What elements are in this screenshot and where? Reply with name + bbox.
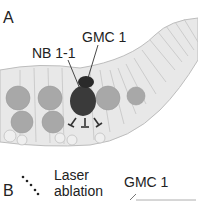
laser-ablation-marker [22, 176, 40, 196]
panel-b-gmc-leader [130, 194, 136, 200]
neuroblast-cell [11, 111, 33, 133]
neuroblast-cell [42, 111, 64, 133]
neuroblast-cell [38, 86, 62, 110]
neuroblast-cell [127, 87, 145, 105]
panel-b-label: B [3, 183, 14, 199]
gmc-1-cell [78, 76, 94, 88]
panel-a-label: A [3, 10, 14, 26]
nb-1-1-label: NB 1-1 [32, 46, 76, 60]
gmc-1-label: GMC 1 [82, 30, 126, 44]
laser-label-line1: Laser [54, 168, 89, 182]
neuroblast-cell [6, 86, 30, 110]
panel-b-gmc-label: GMC 1 [124, 175, 168, 189]
laser-label-line2: ablation [54, 184, 103, 198]
neuroblast-cell [96, 86, 120, 110]
nb-1-1-cell [70, 86, 96, 116]
